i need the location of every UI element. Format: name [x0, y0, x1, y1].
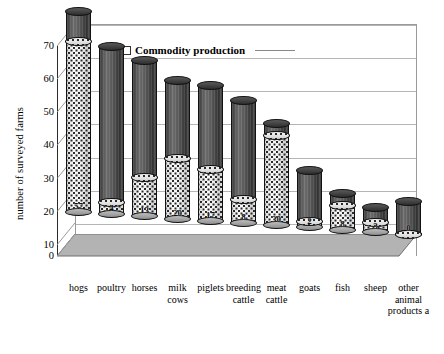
- bar-value-label: 8: [330, 219, 355, 229]
- bar-segment-divider: [65, 37, 92, 46]
- bar-sheep[interactable]: 3: [363, 208, 388, 232]
- bar-goats[interactable]: 2: [297, 170, 322, 227]
- y-tick-50: 50: [44, 107, 55, 117]
- bar-top-cap: [263, 119, 290, 128]
- bar-value-label: 0: [396, 223, 421, 233]
- bar-value-label: 2: [297, 216, 322, 226]
- bar-value-label: 20: [165, 208, 190, 218]
- bar-top-cap: [131, 56, 158, 65]
- bar-top-cap: [98, 42, 125, 51]
- bar-meat-cattle[interactable]: 30: [264, 123, 289, 225]
- y-tick-60: 60: [44, 74, 55, 84]
- y-tick-70: 70: [44, 41, 55, 51]
- bar-segment-remainder: [165, 81, 190, 159]
- bar-segment-remainder: [132, 60, 157, 177]
- bar-segment-divider: [263, 131, 290, 140]
- bar-top-cap: [296, 166, 323, 175]
- x-axis-labels: hogspoultryhorsesmilkcowspigletsbreeding…: [57, 282, 435, 352]
- bar-segment-remainder: [198, 86, 223, 170]
- x-label-line: animal: [382, 294, 436, 306]
- bar-segment-divider: [131, 173, 158, 182]
- chart-root: number of surveyed farms: [0, 0, 444, 354]
- bar-value-label: 30: [264, 214, 289, 224]
- bar-breeding-cattle[interactable]: 8: [231, 100, 256, 223]
- bar-value-label: 17: [198, 210, 223, 220]
- bar-piglets[interactable]: 17: [198, 86, 223, 221]
- bar-hogs[interactable]: 57: [66, 11, 91, 212]
- y-tick-0: 0: [49, 251, 54, 261]
- bar-segment-divider: [230, 195, 257, 204]
- bar-value-label: 3: [363, 221, 388, 231]
- bar-value-label: 13: [132, 205, 157, 215]
- bar-milk-cows[interactable]: 20: [165, 81, 190, 219]
- bar-poultry[interactable]: 4: [99, 46, 124, 214]
- bar-value-label: 8: [231, 212, 256, 222]
- bar-top-cap: [230, 96, 257, 105]
- legend-leader-line: [255, 50, 295, 51]
- bar-value-label: 4: [99, 203, 124, 213]
- x-label-line: cows: [151, 294, 205, 306]
- y-tick-30: 30: [44, 174, 55, 184]
- y-axis-title: number of surveyed farms: [14, 79, 25, 249]
- x-label-line: products a: [382, 305, 436, 317]
- bar-segment-commodity: [66, 41, 91, 212]
- bar-value-label: 57: [66, 201, 91, 211]
- bar-other-animal-products-a[interactable]: 0: [396, 201, 421, 234]
- bar-series-group: 5741320178302830: [57, 24, 417, 256]
- bar-segment-remainder: [231, 100, 256, 199]
- bar-fish[interactable]: 8: [330, 194, 355, 230]
- plot-area: 70 60 50 40 30 20 10 0 5741320178302830: [57, 24, 417, 278]
- legend-label: Commodity production: [135, 44, 245, 56]
- bar-segment-commodity: [264, 135, 289, 225]
- bar-top-cap: [395, 197, 422, 206]
- y-tick-10: 10: [44, 240, 55, 250]
- bar-top-cap: [65, 7, 92, 16]
- bar-segment-remainder: [99, 46, 124, 202]
- bar-segment-remainder: [297, 170, 322, 221]
- bar-horses[interactable]: 13: [132, 60, 157, 216]
- y-tick-20: 20: [44, 207, 55, 217]
- x-label-line: cattle: [250, 294, 304, 306]
- y-tick-40: 40: [44, 140, 55, 150]
- chart-legend: Commodity production: [123, 44, 295, 56]
- x-label-other-animal-products-a: otheranimalproducts a: [382, 282, 436, 317]
- x-label-line: other: [382, 282, 436, 294]
